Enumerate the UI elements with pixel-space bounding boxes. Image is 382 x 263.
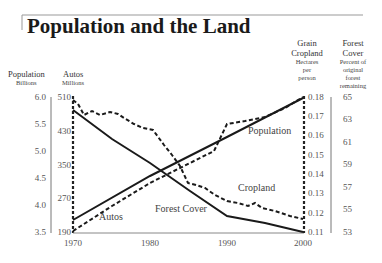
svg-text:original: original	[343, 66, 363, 73]
cropland-axis-unit: Hectares per person	[296, 58, 319, 81]
svg-text:4.5: 4.5	[35, 173, 47, 183]
svg-text:4.0: 4.0	[35, 200, 47, 210]
svg-text:per: per	[303, 66, 312, 73]
svg-text:190: 190	[58, 227, 72, 237]
cropland-series-label: Cropland	[238, 182, 275, 193]
svg-text:0.18: 0.18	[308, 92, 324, 102]
svg-text:Cover: Cover	[343, 48, 364, 58]
svg-text:forest: forest	[346, 74, 361, 81]
cropland-ticks: 0.18 0.17 0.16 0.15 0.14 0.13 0.12 0.11	[308, 92, 324, 237]
svg-text:0.15: 0.15	[308, 150, 324, 160]
autos-axis-label: Autos	[63, 69, 83, 79]
svg-text:0.12: 0.12	[308, 208, 324, 218]
svg-text:Forest: Forest	[342, 38, 364, 48]
svg-text:person: person	[298, 74, 316, 81]
svg-text:3.5: 3.5	[35, 227, 47, 237]
chart-figure: Population and the Land Population Billi…	[0, 0, 382, 263]
autos-axis-unit: Millions	[62, 79, 85, 86]
svg-text:0.17: 0.17	[308, 111, 324, 121]
svg-text:350: 350	[58, 160, 72, 170]
svg-text:2000: 2000	[294, 238, 313, 248]
svg-text:510: 510	[58, 92, 72, 102]
svg-text:0.16: 0.16	[308, 130, 324, 140]
svg-text:Cropland: Cropland	[291, 48, 323, 58]
svg-text:1990: 1990	[218, 238, 237, 248]
svg-text:1970: 1970	[64, 238, 83, 248]
population-ticks: 6.0 5.5 5.0 4.5 4.0 3.5	[35, 92, 47, 237]
population-series-label: Population	[248, 125, 291, 136]
forest-series-label: Forest Cover	[155, 203, 208, 214]
svg-text:Hectares: Hectares	[296, 58, 319, 65]
svg-text:5.5: 5.5	[35, 119, 47, 129]
svg-text:63: 63	[343, 114, 353, 124]
svg-text:Grain: Grain	[297, 38, 317, 48]
svg-text:remaining: remaining	[340, 82, 367, 89]
svg-text:430: 430	[58, 126, 72, 136]
svg-text:6.0: 6.0	[35, 92, 47, 102]
forest-axis-unit: Percent of original forest remaining	[340, 58, 367, 89]
forest-axis-title: Forest Cover	[342, 38, 364, 58]
svg-text:5.0: 5.0	[35, 146, 47, 156]
svg-text:0.14: 0.14	[308, 169, 324, 179]
chart-title: Population and the Land	[27, 14, 251, 38]
svg-text:0.13: 0.13	[308, 188, 324, 198]
svg-text:57: 57	[343, 182, 353, 192]
svg-text:0.11: 0.11	[308, 227, 323, 237]
svg-text:53: 53	[343, 227, 353, 237]
svg-text:55: 55	[343, 204, 353, 214]
autos-series-label: Autos	[99, 211, 123, 222]
svg-text:1980: 1980	[141, 238, 160, 248]
svg-text:59: 59	[343, 159, 353, 169]
svg-text:Percent of: Percent of	[340, 58, 367, 65]
svg-text:61: 61	[343, 137, 352, 147]
population-axis-unit: Billions	[16, 79, 37, 86]
svg-text:270: 270	[58, 193, 72, 203]
cropland-axis-title: Grain Cropland	[291, 38, 323, 58]
population-axis-label: Population	[8, 69, 46, 79]
x-ticks: 1970 1980 1990 2000	[64, 238, 313, 248]
svg-text:65: 65	[343, 92, 353, 102]
forest-ticks: 65 63 61 59 57 55 53	[343, 92, 353, 237]
autos-ticks: 510 430 350 270 190	[58, 92, 72, 237]
